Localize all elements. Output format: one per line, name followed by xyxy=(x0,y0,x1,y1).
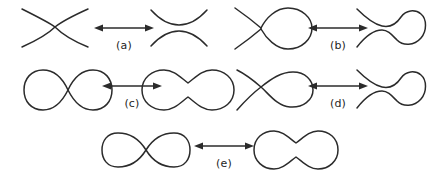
figure-eight-closed-curve-icon xyxy=(100,131,192,169)
figure-e-right-peanut xyxy=(252,129,340,171)
smoothed-arcs-with-loop-icon xyxy=(355,66,429,112)
knot-smoothing-figure: (a) (b) xyxy=(0,0,432,184)
figure-c-right-peanut xyxy=(140,68,236,112)
relation-e-arrow-group: (e) xyxy=(186,140,262,169)
figure-e-left-figure-eight xyxy=(100,131,192,169)
smoothed-arcs-with-loop-icon xyxy=(355,5,429,51)
dumbbell-closed-curve-icon xyxy=(252,129,340,171)
smoothed-horizontal-arcs-icon xyxy=(148,8,210,48)
double-headed-arrow-icon xyxy=(194,140,254,152)
figure-a-right-smoothed-arcs xyxy=(148,8,210,48)
figure-a-left-crossing-x xyxy=(18,4,96,50)
figure-b-right-smoothed-with-loop xyxy=(355,5,429,51)
relation-e-label: (e) xyxy=(186,158,262,169)
crossing-x-icon xyxy=(18,4,96,50)
figure-d-right-smoothed-with-loop xyxy=(355,66,429,112)
dumbbell-closed-curve-icon xyxy=(140,68,236,112)
double-headed-arrow-icon xyxy=(94,22,154,34)
